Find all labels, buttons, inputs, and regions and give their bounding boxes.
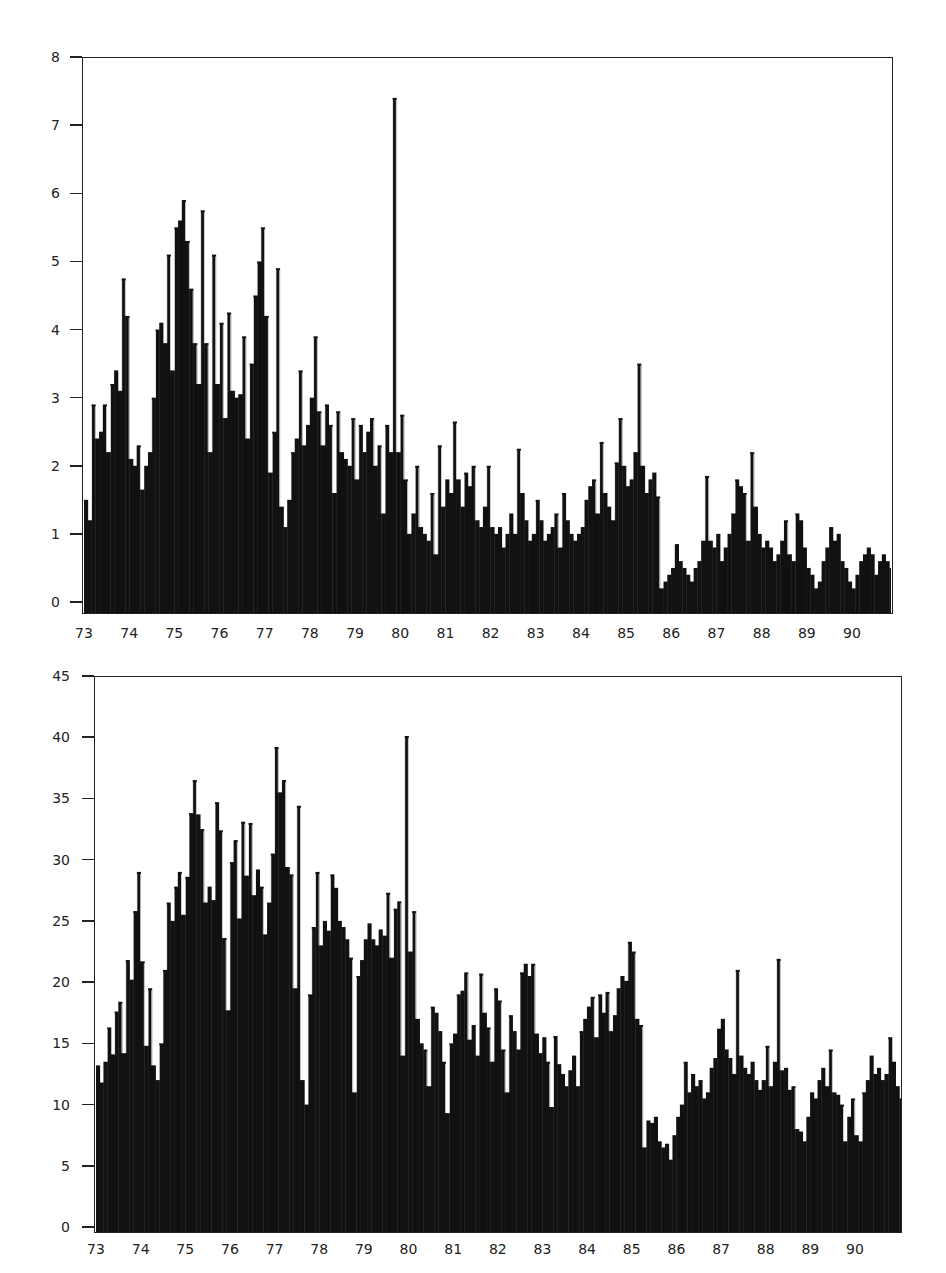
data-bar — [739, 1056, 743, 1232]
data-bar — [687, 1092, 691, 1232]
data-bar — [698, 1080, 702, 1232]
data-bar — [706, 1092, 710, 1232]
data-bar — [323, 921, 327, 1232]
data-bar — [100, 1083, 104, 1232]
data-bar — [650, 1123, 654, 1232]
data-bar — [799, 1131, 803, 1232]
data-bar — [524, 964, 528, 1232]
x-tick-label: 78 — [304, 1242, 334, 1256]
data-bar — [256, 869, 260, 1232]
data-bar — [803, 1141, 807, 1232]
y-tick — [82, 981, 94, 983]
data-bar — [513, 1031, 517, 1232]
bottom-chart-bars — [0, 0, 946, 1273]
data-bar — [881, 1080, 885, 1232]
data-bar — [449, 1043, 453, 1232]
data-bar — [821, 1068, 825, 1232]
data-bar — [542, 1037, 546, 1232]
y-tick-label: 45 — [42, 669, 70, 683]
data-bar — [367, 923, 371, 1232]
x-tick-label: 89 — [795, 1242, 825, 1256]
data-bar — [661, 1147, 665, 1232]
data-bar — [431, 1007, 435, 1232]
y-tick-label: 20 — [42, 975, 70, 989]
data-bar — [319, 945, 323, 1232]
data-bar — [193, 780, 197, 1232]
y-tick — [82, 859, 94, 861]
data-bar — [535, 1034, 539, 1232]
data-bar — [278, 792, 282, 1232]
data-bar — [624, 981, 628, 1232]
data-bar — [713, 1058, 717, 1232]
data-bar — [832, 1092, 836, 1232]
data-bar — [360, 960, 364, 1232]
x-tick-label: 90 — [840, 1242, 870, 1256]
data-bar — [539, 1053, 543, 1232]
data-bar — [208, 887, 212, 1232]
data-bar — [810, 1092, 814, 1232]
data-bar — [873, 1074, 877, 1232]
data-bar — [152, 1065, 156, 1232]
data-bar — [301, 1080, 305, 1232]
y-tick — [82, 1043, 94, 1045]
data-bar — [416, 1019, 420, 1232]
data-bar — [676, 1117, 680, 1232]
data-bar — [684, 1062, 688, 1232]
data-bar — [245, 876, 249, 1232]
data-bar — [293, 988, 297, 1232]
data-bar — [576, 1086, 580, 1232]
data-bar — [862, 1092, 866, 1232]
data-bar — [527, 976, 531, 1232]
data-bar — [204, 903, 208, 1232]
data-bar — [870, 1056, 874, 1232]
data-bar — [252, 895, 256, 1232]
data-bar — [784, 1068, 788, 1232]
data-bar — [602, 1013, 606, 1232]
data-bar — [107, 1027, 111, 1232]
data-bar — [505, 1092, 509, 1232]
data-bar — [241, 822, 245, 1232]
data-bar — [427, 1086, 431, 1232]
data-bar — [509, 1015, 513, 1232]
data-bar — [472, 1025, 476, 1232]
data-bar — [806, 1117, 810, 1232]
data-bar — [587, 1007, 591, 1232]
data-bar — [773, 1062, 777, 1232]
data-bar — [457, 994, 461, 1232]
data-bar — [163, 970, 167, 1232]
y-tick — [82, 798, 94, 800]
data-bar — [170, 921, 174, 1232]
x-tick-label: 80 — [394, 1242, 424, 1256]
data-bar — [420, 1043, 424, 1232]
data-bar — [185, 877, 189, 1232]
data-bar — [382, 936, 386, 1232]
data-bar — [825, 1086, 829, 1232]
data-bar — [111, 1054, 115, 1232]
data-bar — [408, 952, 412, 1233]
data-bar — [196, 814, 200, 1232]
y-tick-label: 10 — [42, 1098, 70, 1112]
data-bar — [226, 1010, 230, 1232]
data-bar — [758, 1090, 762, 1232]
data-bar — [646, 1120, 650, 1232]
data-bar — [129, 980, 133, 1232]
data-bar — [899, 1098, 901, 1232]
data-bar — [747, 1074, 751, 1232]
data-bar — [520, 972, 524, 1232]
data-bar — [550, 1107, 554, 1232]
data-bar — [490, 1062, 494, 1232]
data-bar — [754, 1080, 758, 1232]
data-bar — [401, 1056, 405, 1232]
data-bar — [356, 976, 360, 1232]
x-tick-label: 86 — [661, 1242, 691, 1256]
data-bar — [230, 862, 234, 1232]
y-tick — [82, 1165, 94, 1167]
data-bar — [96, 1065, 100, 1232]
x-tick-label: 74 — [126, 1242, 156, 1256]
data-bar — [717, 1029, 721, 1232]
data-bar — [156, 1080, 160, 1232]
data-bar — [338, 921, 342, 1232]
data-bar — [460, 991, 464, 1232]
y-tick-label: 15 — [42, 1036, 70, 1050]
data-bar — [888, 1037, 892, 1232]
